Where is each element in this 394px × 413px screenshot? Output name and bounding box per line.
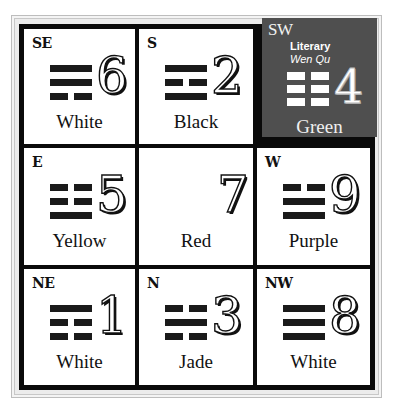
broken-line bbox=[287, 98, 329, 106]
broken-line bbox=[165, 305, 207, 312]
line-segment bbox=[189, 333, 207, 340]
trigram-icon bbox=[50, 305, 92, 347]
color-label: Black bbox=[139, 111, 253, 133]
solid-line bbox=[283, 198, 325, 205]
cell-sw: SWLiteraryWen Qu4Green bbox=[262, 18, 377, 137]
line-segment bbox=[311, 72, 329, 80]
color-label: Yellow bbox=[24, 230, 135, 252]
solid-line bbox=[50, 65, 92, 72]
line-segment bbox=[74, 319, 92, 326]
broken-line bbox=[50, 333, 92, 340]
line-segment bbox=[74, 198, 92, 205]
color-label: Green bbox=[262, 116, 377, 138]
line-segment bbox=[50, 184, 68, 191]
line-segment bbox=[165, 65, 207, 72]
line-segment bbox=[165, 305, 183, 312]
broken-line bbox=[165, 333, 207, 340]
star-number: 1 bbox=[96, 291, 128, 341]
line-segment bbox=[50, 319, 68, 326]
line-segment bbox=[283, 184, 301, 191]
solid-line bbox=[50, 79, 92, 86]
line-segment bbox=[165, 79, 183, 86]
star-alias: Wen Qu bbox=[290, 53, 330, 65]
line-segment bbox=[165, 333, 183, 340]
broken-line bbox=[287, 72, 329, 80]
star-number: 3 bbox=[211, 291, 243, 341]
broken-line bbox=[50, 198, 92, 205]
star-number: 7 bbox=[217, 170, 249, 220]
solid-line bbox=[165, 93, 207, 100]
trigram-icon bbox=[287, 72, 329, 111]
cell-e: E5Yellow bbox=[24, 148, 135, 265]
color-label: White bbox=[24, 351, 135, 373]
solid-line bbox=[283, 319, 325, 326]
direction-label: SE bbox=[32, 35, 52, 51]
direction-label: E bbox=[32, 154, 42, 170]
solid-line bbox=[283, 305, 325, 312]
color-label: Purple bbox=[257, 230, 370, 252]
color-label: White bbox=[24, 111, 135, 133]
line-segment bbox=[283, 319, 325, 326]
line-segment bbox=[283, 333, 325, 340]
line-segment bbox=[50, 212, 92, 219]
line-segment bbox=[50, 305, 92, 312]
star-name: Literary bbox=[290, 40, 330, 52]
cell-n: N3Jade bbox=[139, 269, 253, 385]
trigram-icon bbox=[165, 65, 207, 107]
solid-line bbox=[165, 65, 207, 72]
star-number: 4 bbox=[334, 64, 363, 110]
broken-line bbox=[50, 93, 92, 100]
solid-line bbox=[165, 319, 207, 326]
solid-line bbox=[283, 333, 325, 340]
trigram-icon bbox=[283, 305, 325, 347]
line-segment bbox=[50, 333, 68, 340]
line-segment bbox=[74, 184, 92, 191]
color-label: Jade bbox=[139, 351, 253, 373]
trigram-icon bbox=[165, 305, 207, 347]
line-segment bbox=[50, 93, 68, 100]
direction-label: NE bbox=[32, 275, 54, 291]
broken-line bbox=[165, 79, 207, 86]
line-segment bbox=[74, 93, 92, 100]
direction-label: N bbox=[147, 275, 159, 291]
cell-s: S2Black bbox=[139, 29, 253, 144]
broken-line bbox=[50, 184, 92, 191]
line-segment bbox=[287, 85, 305, 93]
solid-line bbox=[50, 212, 92, 219]
line-segment bbox=[311, 85, 329, 93]
color-label: Red bbox=[139, 230, 253, 252]
broken-line bbox=[287, 85, 329, 93]
line-segment bbox=[283, 305, 325, 312]
line-segment bbox=[311, 98, 329, 106]
line-segment bbox=[287, 72, 305, 80]
line-segment bbox=[287, 98, 305, 106]
star-number: 2 bbox=[211, 51, 243, 101]
line-segment bbox=[165, 319, 207, 326]
broken-line bbox=[283, 184, 325, 191]
line-segment bbox=[74, 333, 92, 340]
star-number: 8 bbox=[329, 291, 361, 341]
star-number: 5 bbox=[96, 170, 128, 220]
line-segment bbox=[50, 198, 68, 205]
cell-center: 7Red bbox=[139, 148, 253, 265]
cell-nw: NW8White bbox=[257, 269, 370, 385]
line-segment bbox=[189, 79, 207, 86]
broken-line bbox=[50, 319, 92, 326]
line-segment bbox=[189, 305, 207, 312]
line-segment bbox=[50, 79, 92, 86]
star-number: 6 bbox=[96, 51, 128, 101]
trigram-icon bbox=[283, 184, 325, 226]
line-segment bbox=[283, 212, 325, 219]
trigram-icon bbox=[50, 65, 92, 107]
star-number: 9 bbox=[329, 170, 361, 220]
cell-ne: NE1White bbox=[24, 269, 135, 385]
cell-w: W9Purple bbox=[257, 148, 370, 265]
line-segment bbox=[283, 198, 325, 205]
line-segment bbox=[307, 184, 325, 191]
direction-label: W bbox=[265, 154, 280, 170]
solid-line bbox=[50, 305, 92, 312]
direction-label: SW bbox=[268, 20, 293, 40]
line-segment bbox=[165, 93, 207, 100]
solid-line bbox=[283, 212, 325, 219]
cell-se: SE6White bbox=[24, 29, 135, 144]
